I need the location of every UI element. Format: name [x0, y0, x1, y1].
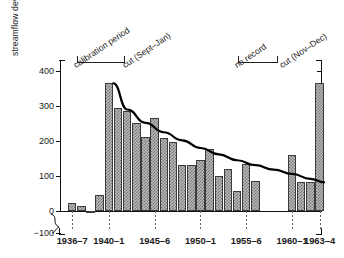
fitted-recovery-curve	[60, 60, 322, 211]
y-tick-label-200: 200	[39, 136, 54, 146]
annotation-no-record-bracket-left	[238, 56, 239, 63]
x-tick-1945	[155, 211, 156, 231]
y-axis-bottom-cap	[59, 234, 65, 235]
right-axis-bottom-cap	[316, 234, 322, 235]
y-tick-label-100: 100	[39, 171, 54, 181]
y-tick-label-300: 300	[39, 101, 54, 111]
y-tick-neg100	[56, 233, 61, 234]
y-tick-label-400: 400	[39, 66, 54, 76]
y-tick-0	[56, 211, 61, 212]
y-tick-label-neg100: −100	[34, 228, 54, 238]
y-axis-label: streamflow deviations from regression (m…	[10, 0, 24, 56]
x-tick-1963	[320, 211, 321, 231]
x-tick-label-1960: 1960–1	[277, 236, 308, 246]
chart-figure: streamflow deviations from regression (m…	[0, 0, 344, 258]
x-tick-1955	[246, 211, 247, 231]
y-tick-label-0: 0	[49, 206, 54, 216]
x-tick-1936	[72, 211, 73, 231]
x-tick-1940	[109, 211, 110, 231]
x-tick-label-1940: 1940–1	[93, 236, 124, 246]
x-axis-line	[60, 211, 322, 212]
plot-area: streamflow deviations from regression (m…	[60, 60, 322, 211]
x-tick-label-1950: 1950–1	[185, 236, 216, 246]
x-tick-label-1955: 1955–6	[231, 236, 262, 246]
annotation-no-record-bracket	[238, 62, 278, 63]
annotation-calibration-period-bracket	[77, 62, 125, 63]
x-tick-1960	[292, 211, 293, 231]
x-tick-label-1936: 1936–7	[57, 236, 88, 246]
annotation-calibration-bracket-left	[77, 56, 78, 63]
bar-1938-9	[86, 211, 94, 213]
x-tick-1950	[200, 211, 201, 231]
x-tick-label-1945: 1945–6	[139, 236, 170, 246]
x-tick-label-1963: 1963–4	[304, 236, 335, 246]
